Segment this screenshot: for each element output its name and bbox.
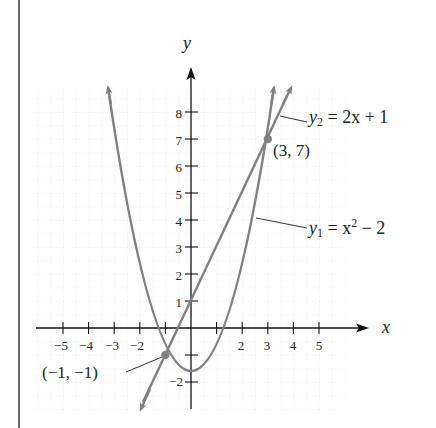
y-tick-label: 4 (176, 215, 183, 228)
equation-y2-label: y2 = 2x + 1 (309, 108, 388, 128)
x-tick-label: −4 (79, 339, 93, 352)
y-tick-label: 2 (176, 269, 183, 282)
point-label-neg1-neg1: (−1, −1) (42, 364, 98, 381)
grid (33, 88, 345, 410)
x-tick-label: 5 (316, 339, 323, 352)
y-tick-label: 6 (176, 161, 183, 174)
y-tick-label: 8 (176, 107, 183, 120)
y-tick-label: 3 (176, 242, 183, 255)
y-axis-label: y (183, 34, 191, 52)
x-tick-label: −5 (54, 339, 68, 352)
equation-y1-label: y1 = x2 − 2 (309, 217, 385, 239)
intersection-point-neg1-neg1 (161, 351, 169, 359)
x-tick-label: −2 (130, 339, 144, 352)
y-tick-label: −2 (168, 375, 184, 388)
y-tick-label: 7 (176, 134, 183, 147)
figure: y x −5 −4 −3 −2 2 3 4 5 8 7 6 5 4 3 2 1 … (0, 0, 436, 428)
y-tick-label: 1 (176, 296, 183, 309)
x-tick-label: 4 (290, 339, 297, 352)
x-tick-label: 3 (264, 339, 271, 352)
x-tick-label: 2 (238, 339, 245, 352)
y-tick-label: 5 (176, 188, 183, 201)
x-axis-label: x (382, 318, 390, 336)
intersection-point-3-7 (264, 135, 272, 143)
x-tick-label: −3 (105, 339, 119, 352)
point-label-3-7: (3, 7) (273, 142, 310, 159)
